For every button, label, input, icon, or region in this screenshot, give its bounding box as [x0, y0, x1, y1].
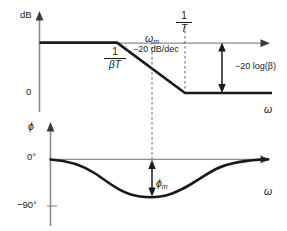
bode-plot-canvas — [0, 0, 287, 231]
phase-y-axis — [47, 122, 55, 226]
phase-minus90-tick-label: −90° — [17, 200, 37, 210]
attenuation-double-arrow — [218, 42, 225, 93]
phi-m-double-arrow — [148, 160, 155, 197]
attenuation-label: −20 log(β) — [235, 62, 276, 71]
magnitude-x-axis-label: ω — [264, 104, 272, 115]
magnitude-y-axis-label: dB — [20, 10, 32, 20]
phi-m-subscript: m — [162, 183, 168, 190]
magnitude-y-axis — [36, 11, 44, 112]
phase-zero-tick-label: 0° — [27, 152, 36, 162]
upper-corner-frequency-label: 1 T — [176, 11, 192, 34]
upper-corner-denominator: T — [176, 23, 192, 34]
phi-m-label: ϕm — [156, 174, 168, 190]
omega-m-label: ωm — [145, 29, 159, 45]
lower-corner-denominator: βT — [104, 59, 126, 70]
upper-corner-numerator: 1 — [176, 11, 192, 22]
phase-x-axis-label: ω — [264, 186, 272, 197]
bode-plot-figure: dB 0 1 βT 1 T ωm −20 dB/dec −20 log(β) ω… — [0, 0, 287, 231]
phase-y-axis-label: ϕ — [28, 121, 34, 132]
lower-corner-frequency-label: 1 βT — [104, 47, 126, 70]
lower-corner-numerator: 1 — [104, 47, 126, 58]
omega-m-symbol: ω — [145, 32, 153, 44]
slope-label: −20 dB/dec — [133, 45, 179, 54]
magnitude-zero-tick-label: 0 — [26, 87, 31, 97]
